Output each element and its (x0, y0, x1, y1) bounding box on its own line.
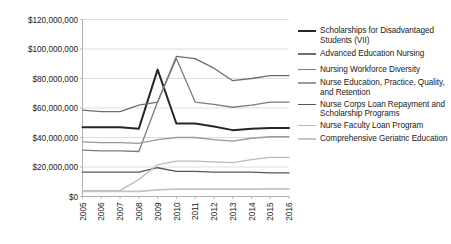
y-tick-label: $40,000,000 (32, 134, 78, 143)
x-tick-label: 2016 (285, 202, 294, 221)
x-axis-tick-labels: 2005200620072008200920102011201220132014… (79, 197, 295, 221)
x-tick-label: 2009 (154, 202, 163, 221)
x-tick-label: 2008 (135, 202, 144, 221)
legend-swatch-icon (298, 134, 316, 143)
legend-swatch-icon (298, 49, 316, 58)
gridlines (83, 20, 290, 197)
y-tick-label: $80,000,000 (32, 75, 78, 84)
x-tick-label: 2006 (97, 202, 106, 221)
legend-item[interactable]: Comprehensive Geriatric Education (298, 134, 451, 144)
legend-item[interactable]: Nursing Workforce Diversity (298, 65, 451, 75)
data-series-group (83, 56, 290, 191)
x-tick-label: 2010 (173, 202, 182, 221)
legend-item-label: Nurse Education, Practice, Quality, and … (320, 78, 451, 97)
x-tick-label: 2014 (248, 202, 257, 221)
legend-item[interactable]: Nurse Education, Practice, Quality, and … (298, 78, 451, 97)
x-tick-label: 2011 (191, 202, 200, 220)
x-tick-label: 2015 (266, 202, 275, 221)
x-tick-label: 2013 (229, 202, 238, 221)
y-axis-tick-labels: $0$20,000,000$40,000,000$60,000,000$80,0… (28, 16, 83, 202)
legend-swatch-icon (298, 65, 316, 74)
y-tick-label: $20,000,000 (32, 163, 78, 172)
series-line-4 (83, 168, 290, 173)
legend-item[interactable]: Nurse Corps Loan Repayment and Scholarsh… (298, 100, 451, 119)
legend-item-label: Nursing Workforce Diversity (320, 65, 420, 75)
chart-legend: Scholarships for Disadvantaged Students … (298, 26, 451, 146)
legend-item-label: Scholarships for Disadvantaged Students … (320, 26, 451, 45)
legend-item[interactable]: Nurse Faculty Loan Program (298, 121, 451, 131)
y-tick-label: $120,000,000 (28, 16, 79, 25)
legend-swatch-icon (298, 78, 316, 87)
legend-item-label: Nurse Faculty Loan Program (320, 121, 423, 131)
legend-item-label: Advanced Education Nursing (320, 49, 424, 59)
legend-swatch-icon (298, 26, 316, 35)
legend-swatch-icon (298, 100, 316, 109)
legend-item-label: Nurse Corps Loan Repayment and Scholarsh… (320, 100, 451, 119)
legend-item[interactable]: Scholarships for Disadvantaged Students … (298, 26, 451, 45)
legend-swatch-icon (298, 121, 316, 130)
series-line-5 (83, 157, 290, 190)
x-tick-label: 2007 (116, 202, 125, 221)
x-tick-label: 2012 (210, 202, 219, 221)
x-tick-label: 2005 (79, 202, 88, 221)
y-tick-label: $0 (69, 193, 79, 202)
legend-item-label: Comprehensive Geriatric Education (320, 134, 448, 144)
legend-item[interactable]: Advanced Education Nursing (298, 49, 451, 59)
line-chart: $0$20,000,000$40,000,000$60,000,000$80,0… (0, 0, 451, 244)
y-tick-label: $100,000,000 (28, 45, 79, 54)
y-tick-label: $60,000,000 (32, 104, 78, 113)
